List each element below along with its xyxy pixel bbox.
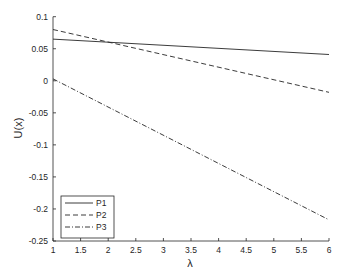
- x-tick-label: 4.5: [240, 245, 252, 255]
- y-tick-label: -0.1: [33, 140, 48, 150]
- y-tick-label: 0.05: [31, 44, 48, 54]
- legend-label-p3: P3: [96, 222, 107, 232]
- y-tick-label: -0.15: [29, 172, 49, 182]
- y-tick-label: -0.25: [29, 236, 49, 246]
- x-tick-label: 3.5: [185, 245, 197, 255]
- series-lines: [53, 30, 329, 220]
- x-axis-label: λ: [187, 257, 193, 269]
- x-tick-label: 1: [51, 245, 56, 255]
- x-tick-label: 3: [161, 245, 166, 255]
- y-tick-label: 0.1: [36, 12, 48, 22]
- x-tick-label: 5.5: [295, 245, 307, 255]
- series-line-p1: [53, 39, 329, 54]
- y-tick-label: -0.05: [29, 108, 49, 118]
- y-tick-label: 0: [43, 76, 48, 86]
- y-axis-label: U(x): [12, 118, 24, 139]
- x-tick-label: 5: [271, 245, 276, 255]
- x-tick-label: 2: [106, 245, 111, 255]
- x-tick-label: 2.5: [130, 245, 142, 255]
- legend-label-p2: P2: [96, 210, 107, 220]
- line-chart: 11.522.533.544.555.560.10.050-0.05-0.1-0…: [0, 0, 350, 276]
- y-tick-label: -0.2: [33, 204, 48, 214]
- x-tick-label: 1.5: [75, 245, 87, 255]
- x-tick-label: 6: [327, 245, 332, 255]
- x-tick-label: 4: [216, 245, 221, 255]
- chart-canvas: 11.522.533.544.555.560.10.050-0.05-0.1-0…: [0, 0, 350, 276]
- series-line-p2: [53, 30, 329, 93]
- legend-label-p1: P1: [96, 198, 107, 208]
- legend: P1P2P3: [61, 196, 114, 238]
